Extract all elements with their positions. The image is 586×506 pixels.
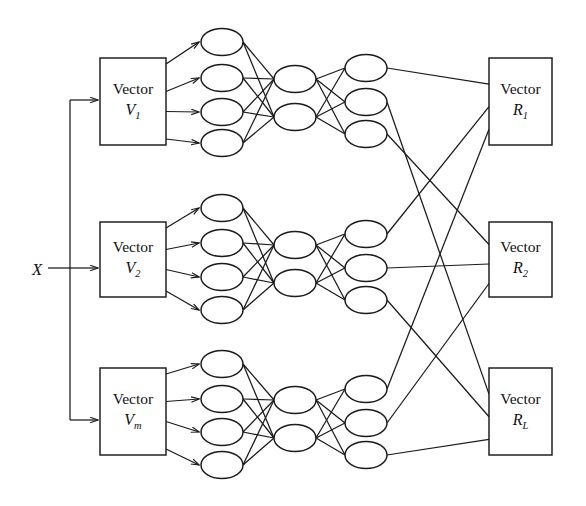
edge-input-hidden-2-0-0 bbox=[243, 364, 274, 400]
result-box-rl bbox=[489, 368, 552, 455]
edge-hidden-output-0-0-0 bbox=[316, 68, 345, 79]
edge-box-to-input-2-2 bbox=[166, 422, 199, 433]
edge-input-hidden-1-0-0 bbox=[243, 208, 274, 245]
edge-hidden-output-0-0-1 bbox=[316, 79, 345, 102]
node-input-1-0 bbox=[201, 195, 243, 222]
node-input-2-2 bbox=[201, 419, 243, 446]
edge-box-to-input-2-1 bbox=[166, 399, 199, 402]
node-output-1-2 bbox=[345, 287, 387, 314]
edge-output-to-result-box-r1-3 bbox=[387, 107, 489, 234]
edge-box-to-input-1-2 bbox=[166, 270, 199, 278]
node-output-1-0 bbox=[345, 221, 387, 248]
vector-box-vm bbox=[100, 368, 166, 455]
node-input-1-2 bbox=[201, 264, 243, 291]
edge-input-hidden-2-1-0 bbox=[243, 399, 274, 400]
edge-box-to-input-1-3 bbox=[166, 291, 199, 310]
edge-hidden-output-1-0-1 bbox=[316, 245, 345, 268]
result-box-r2 bbox=[489, 222, 552, 297]
edge-box-to-input-1-1 bbox=[166, 243, 199, 250]
node-hidden-1-1 bbox=[274, 270, 316, 297]
edge-hidden-output-1-0-0 bbox=[316, 234, 345, 245]
edge-box-to-input-0-1 bbox=[166, 78, 199, 92]
node-input-2-3 bbox=[201, 452, 243, 479]
edge-output-to-result-box-rl-5 bbox=[387, 300, 489, 417]
edge-output-to-result-box-rl-8 bbox=[387, 439, 489, 455]
node-hidden-0-1 bbox=[274, 104, 316, 131]
edge-input-hidden-0-3-1 bbox=[243, 117, 274, 143]
vector-box-v2 bbox=[100, 222, 166, 297]
node-input-0-3 bbox=[201, 130, 243, 157]
node-output-1-1 bbox=[345, 255, 387, 282]
edge-output-to-result-box-r2-4 bbox=[387, 264, 489, 268]
node-hidden-2-0 bbox=[274, 387, 316, 414]
node-input-0-2 bbox=[201, 99, 243, 126]
node-hidden-2-1 bbox=[274, 425, 316, 452]
edge-output-to-result-box-r2-7 bbox=[387, 284, 489, 424]
edge-input-hidden-0-0-1 bbox=[243, 42, 274, 117]
edge-input-hidden-0-2-1 bbox=[243, 112, 274, 117]
edge-hidden-output-2-0-1 bbox=[316, 400, 345, 423]
edge-output-to-result-box-r1-0 bbox=[387, 68, 489, 84]
edge-box-to-input-2-3 bbox=[166, 449, 199, 465]
node-input-0-0 bbox=[201, 29, 243, 56]
node-output-2-2 bbox=[345, 442, 387, 469]
edge-input-hidden-2-3-1 bbox=[243, 438, 274, 465]
node-output-2-1 bbox=[345, 410, 387, 437]
edge-box-to-input-1-0 bbox=[166, 208, 199, 228]
node-input-2-1 bbox=[201, 386, 243, 413]
edge-output-to-result-box-r2-2 bbox=[387, 134, 489, 245]
node-hidden-0-0 bbox=[274, 66, 316, 93]
node-input-1-3 bbox=[201, 297, 243, 324]
node-output-0-2 bbox=[345, 121, 387, 148]
edge-input-hidden-0-1-0 bbox=[243, 78, 274, 79]
network-graphics bbox=[0, 0, 586, 506]
edge-input-hidden-0-0-0 bbox=[243, 42, 274, 79]
result-box-r1 bbox=[489, 58, 552, 145]
edge-hidden-output-2-0-0 bbox=[316, 389, 345, 400]
node-input-1-1 bbox=[201, 230, 243, 257]
node-hidden-1-0 bbox=[274, 232, 316, 259]
edge-box-to-input-2-0 bbox=[166, 364, 199, 374]
edge-input-hidden-1-3-1 bbox=[243, 283, 274, 310]
node-output-0-0 bbox=[345, 55, 387, 82]
vector-box-v1 bbox=[100, 58, 166, 145]
node-input-0-1 bbox=[201, 65, 243, 92]
network-diagram: X Vector V1 Vector V2 Vector Vm Vector R… bbox=[0, 0, 586, 506]
edge-box-to-input-0-2 bbox=[166, 112, 199, 113]
edge-box-to-input-0-3 bbox=[166, 139, 199, 143]
node-output-0-1 bbox=[345, 89, 387, 116]
edge-box-to-input-0-0 bbox=[166, 42, 199, 64]
node-input-2-0 bbox=[201, 351, 243, 378]
node-output-2-0 bbox=[345, 376, 387, 403]
